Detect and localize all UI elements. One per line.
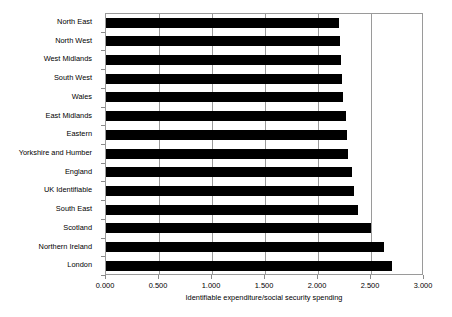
bar-row <box>106 70 424 87</box>
bar <box>106 186 354 196</box>
plot-area <box>105 13 423 275</box>
x-axis-tick-label: 1.000 <box>202 281 221 290</box>
bar-row <box>106 126 424 143</box>
bar <box>106 92 343 102</box>
bar <box>106 74 342 84</box>
y-axis-label: England <box>65 163 92 180</box>
x-axis-tick <box>317 275 318 279</box>
x-axis-tick-label: 2.500 <box>361 281 380 290</box>
y-axis-label: East Midlands <box>46 107 92 124</box>
y-axis-label: North West <box>55 32 92 49</box>
y-axis-label: London <box>67 256 92 273</box>
x-axis-title: Identifiable expenditure/social security… <box>105 293 423 302</box>
x-axis-tick-label: 3.000 <box>414 281 433 290</box>
bar-row <box>106 182 424 199</box>
y-axis-label: West Midlands <box>44 50 92 67</box>
bar-row <box>106 145 424 162</box>
y-axis-label: UK Identifiable <box>44 181 92 198</box>
x-axis-tick <box>423 275 424 279</box>
y-axis-label: South East <box>56 200 92 217</box>
y-axis-label: Wales <box>72 88 92 105</box>
y-axis-label: South West <box>54 69 92 86</box>
bar <box>106 223 371 233</box>
x-axis-tick <box>370 275 371 279</box>
y-axis-label: North East <box>57 13 92 30</box>
bar-row <box>106 33 424 50</box>
bar-row <box>106 164 424 181</box>
x-axis-tick-label: 0.500 <box>149 281 168 290</box>
x-axis-tick <box>264 275 265 279</box>
x-axis-tick <box>158 275 159 279</box>
bar <box>106 55 341 65</box>
bar <box>106 167 352 177</box>
bars-layer <box>106 14 422 274</box>
y-axis-label: Yorkshire and Humber <box>19 144 92 161</box>
x-axis-tick-label: 0.000 <box>96 281 115 290</box>
bar <box>106 261 392 271</box>
bar <box>106 111 346 121</box>
bar <box>106 149 348 159</box>
bar-row <box>106 257 424 274</box>
bar-row <box>106 220 424 237</box>
y-axis-label: Northern Ireland <box>39 238 92 255</box>
bar-row <box>106 14 424 31</box>
x-axis-tick <box>211 275 212 279</box>
bar-row <box>106 108 424 125</box>
bar-chart: North EastNorth WestWest MidlandsSouth W… <box>0 0 452 317</box>
y-axis-label: Scotland <box>63 219 92 236</box>
bar <box>106 130 347 140</box>
bar-row <box>106 89 424 106</box>
x-axis-tick-label: 2.000 <box>308 281 327 290</box>
y-axis-labels: North EastNorth WestWest MidlandsSouth W… <box>0 13 100 275</box>
bar-row <box>106 51 424 68</box>
bar-row <box>106 201 424 218</box>
y-axis-label: Eastern <box>67 125 92 142</box>
x-axis-tick <box>105 275 106 279</box>
bar <box>106 242 384 252</box>
x-axis-tick-label: 1.500 <box>255 281 274 290</box>
bar-row <box>106 239 424 256</box>
bar <box>106 18 339 28</box>
bar <box>106 36 340 46</box>
bar <box>106 205 358 215</box>
